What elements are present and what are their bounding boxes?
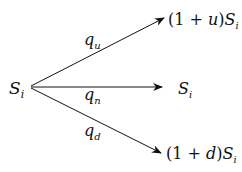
root-node: Si (9, 78, 24, 101)
prob-down-label: qd (84, 121, 101, 142)
outcome-neutral: Si (178, 79, 192, 100)
prob-neutral-label: qn (84, 85, 101, 106)
outcome-down: (1 + d)Si (166, 144, 237, 165)
outcome-up: (1 + u)Si (168, 10, 239, 31)
arrow-up (31, 18, 164, 86)
prob-up-label: qu (84, 30, 101, 51)
trinomial-tree: Si qu qn qd (1 + u)Si Si (1 + d)Si (0, 0, 242, 172)
